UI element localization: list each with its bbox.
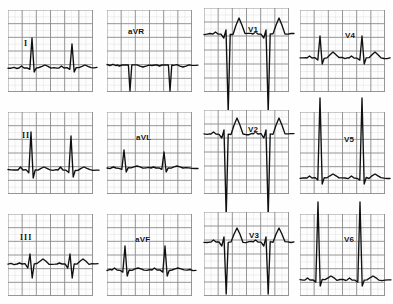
ecg-grid-lead-iii [8, 214, 93, 296]
ecg-panel-lead-avf [107, 214, 192, 296]
lead-label-lead-v2: V2 [248, 126, 258, 134]
ecg-grid-lead-ii [8, 112, 93, 194]
ecg-grid-lead-v6 [300, 214, 385, 296]
ecg-grid-lead-v5 [300, 112, 385, 194]
ecg-panel-lead-i [8, 10, 93, 92]
lead-label-lead-v5: V5 [344, 136, 354, 144]
ecg-grid-lead-v4 [300, 10, 385, 92]
lead-label-lead-v1: V1 [248, 26, 258, 34]
ecg-grid-lead-i [8, 10, 93, 92]
lead-label-lead-v3: V3 [249, 232, 259, 240]
ecg-sheet: IaVRV1V4IIaVLV2V5IIIaVFV3V6 [0, 0, 393, 304]
ecg-panel-lead-v1 [204, 8, 289, 92]
ecg-panel-lead-v2 [204, 110, 289, 194]
lead-label-lead-avl: aVL [136, 134, 151, 142]
lead-label-lead-ii: II [22, 132, 30, 140]
ecg-grid-lead-v2 [204, 110, 289, 194]
ecg-panel-lead-ii [8, 112, 93, 194]
ecg-grid-lead-avl [107, 112, 192, 194]
ecg-panel-lead-avl [107, 112, 192, 194]
lead-label-lead-i: I [24, 40, 28, 48]
ecg-grid-lead-avr [107, 10, 192, 92]
lead-label-lead-avf: aVF [135, 236, 150, 244]
ecg-grid-lead-v3 [204, 212, 289, 296]
ecg-panel-lead-v5 [300, 112, 385, 194]
lead-label-lead-avr: aVR [128, 28, 144, 36]
ecg-panel-lead-avr [107, 10, 192, 92]
lead-label-lead-v4: V4 [345, 32, 355, 40]
ecg-grid-lead-v1 [204, 8, 289, 92]
ecg-panel-lead-iii [8, 214, 93, 296]
ecg-grid-lead-avf [107, 214, 192, 296]
lead-label-lead-iii: III [20, 234, 32, 242]
ecg-panel-lead-v3 [204, 212, 289, 296]
lead-label-lead-v6: V6 [344, 236, 354, 244]
ecg-panel-lead-v4 [300, 10, 385, 92]
ecg-panel-lead-v6 [300, 214, 385, 296]
